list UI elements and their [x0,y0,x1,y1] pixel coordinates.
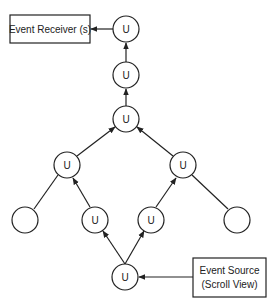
nodes: U U U U U U U [12,16,250,290]
node-n10: U [112,264,138,290]
edge-n4-to-n3 [77,127,115,156]
node-label: U [147,215,154,226]
event-propagation-diagram: Event Receiver (s) Event Source (Scroll … [0,0,276,307]
node-n7: U [82,207,108,233]
node-label: U [63,160,70,171]
node-n1: U [113,16,139,42]
event-receiver-box: Event Receiver (s) [9,15,91,43]
node-label: U [122,24,129,35]
node-label: U [179,160,186,171]
node-label: U [122,114,129,125]
node-n3: U [113,106,139,132]
event-source-box: Event Source (Scroll View) [193,258,266,297]
node-label: U [121,272,128,283]
node-n6 [12,207,38,233]
edge-n7-to-n4 [73,178,90,207]
node-n9 [224,207,250,233]
edge-n10-to-n8 [125,231,144,264]
event-receiver-label: Event Receiver (s) [9,24,91,35]
node-label: U [91,215,98,226]
node-n2: U [113,62,139,88]
node-n5: U [170,152,196,178]
edge-n5-to-n3 [137,127,173,156]
node-n8: U [138,207,164,233]
event-source-label-line1: Event Source [199,265,259,276]
edge-n9-n5 [192,175,228,209]
event-source-label-line2: (Scroll View) [202,279,258,290]
edge-n8-to-n5 [156,178,176,207]
node-n4: U [54,152,80,178]
node-label: U [122,70,129,81]
edge-n6-n4 [34,175,58,209]
edge-n10-to-n7 [103,231,125,264]
